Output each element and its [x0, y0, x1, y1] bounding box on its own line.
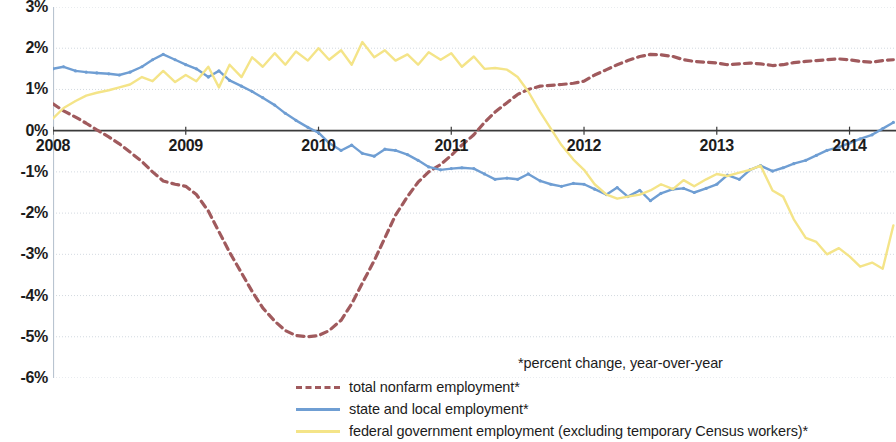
y-axis-tick-label: 3%	[0, 0, 48, 15]
y-axis-tick-label: 1%	[0, 81, 48, 97]
plot-area	[53, 7, 896, 378]
legend-label: state and local employment*	[349, 401, 528, 417]
x-axis-tick-label: 2012	[567, 137, 601, 155]
series-line	[53, 54, 893, 336]
chart-svg	[53, 7, 896, 378]
x-axis-tick-label: 2011	[435, 137, 469, 155]
chart-legend: total nonfarm employment*state and local…	[296, 376, 896, 442]
x-axis-tick-label: 2013	[700, 137, 734, 155]
footnote-text: *percent change, year-over-year	[518, 355, 723, 371]
legend-label: total nonfarm employment*	[349, 379, 520, 395]
y-axis-labels: 3%2%1%0%-1%-2%-3%-4%-5%-6%	[0, 0, 48, 442]
legend-item: federal government employment (excluding…	[296, 420, 896, 442]
legend-item: total nonfarm employment*	[296, 376, 896, 398]
legend-item: state and local employment*	[296, 398, 896, 420]
legend-label: federal government employment (excluding…	[349, 423, 808, 439]
chart-root: 3%2%1%0%-1%-2%-3%-4%-5%-6% 2008200920102…	[0, 0, 896, 442]
y-axis-tick-label: -4%	[0, 288, 48, 304]
y-axis-tick-label: -3%	[0, 246, 48, 262]
y-axis-tick-label: -6%	[0, 370, 48, 386]
legend-swatch-icon	[296, 430, 340, 433]
y-axis-tick-label: -5%	[0, 329, 48, 345]
x-axis-tick-label: 2010	[301, 137, 335, 155]
legend-swatch-icon	[296, 386, 340, 389]
x-axis-tick-label: 2014	[832, 137, 866, 155]
x-axis-tick-label: 2008	[36, 137, 70, 155]
y-axis-tick-label: -1%	[0, 164, 48, 180]
legend-swatch-icon	[296, 408, 340, 411]
series-line	[53, 42, 893, 269]
y-axis-tick-label: -2%	[0, 205, 48, 221]
y-axis-tick-label: 2%	[0, 40, 48, 56]
x-axis-tick-label: 2009	[169, 137, 203, 155]
